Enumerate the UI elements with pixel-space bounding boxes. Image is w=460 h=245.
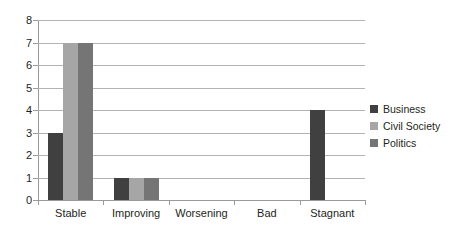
bar-group (48, 20, 93, 200)
x-axis-category-label: Stable (55, 207, 86, 219)
legend-item: Civil Society (370, 117, 460, 134)
x-axis-tick (169, 200, 170, 205)
x-axis-tick (103, 200, 104, 205)
legend-item-label: Business (383, 103, 426, 115)
y-axis-tick (33, 65, 38, 66)
bar-group (114, 20, 159, 200)
bar (129, 178, 144, 201)
y-axis-tick (33, 43, 38, 44)
x-axis-tick (234, 200, 235, 205)
y-axis-tick-label: 8 (8, 15, 32, 26)
x-axis-category-label: Stagnant (310, 207, 354, 219)
bar (144, 178, 159, 201)
bar-group (244, 20, 289, 200)
bar-chart: 012345678 StableImprovingWorseningBadSta… (0, 0, 460, 245)
x-axis-tick (365, 200, 366, 205)
bar (63, 43, 78, 201)
y-axis-tick (33, 155, 38, 156)
y-axis-tick (33, 20, 38, 21)
y-axis-tick-label: 0 (8, 195, 32, 206)
y-axis-tick-label: 5 (8, 82, 32, 93)
y-axis-tick (33, 200, 38, 201)
y-axis-tick (33, 88, 38, 89)
y-axis-tick (33, 133, 38, 134)
y-axis-labels: 012345678 (0, 0, 32, 245)
plot-area (38, 20, 365, 200)
y-axis-tick-label: 2 (8, 150, 32, 161)
bar-group (179, 20, 224, 200)
legend-item-label: Civil Society (383, 120, 440, 132)
bar-group (310, 20, 355, 200)
legend-item-label: Politics (383, 137, 416, 149)
chart-legend: BusinessCivil SocietyPolitics (370, 100, 460, 151)
y-axis-tick (33, 110, 38, 111)
x-axis-category-label: Improving (112, 207, 160, 219)
x-axis-tick (300, 200, 301, 205)
legend-swatch-icon (370, 139, 378, 147)
x-axis-tick (38, 200, 39, 205)
y-axis-tick-label: 1 (8, 172, 32, 183)
y-axis-tick-label: 3 (8, 127, 32, 138)
bar (310, 110, 325, 200)
bar (78, 43, 93, 201)
legend-item: Business (370, 100, 460, 117)
y-axis-tick-label: 6 (8, 60, 32, 71)
x-axis-category-label: Bad (257, 207, 277, 219)
x-axis-category-label: Worsening (175, 207, 227, 219)
gridline (38, 200, 365, 201)
bar (48, 133, 63, 201)
y-axis-tick-label: 4 (8, 105, 32, 116)
legend-swatch-icon (370, 105, 378, 113)
legend-swatch-icon (370, 122, 378, 130)
bar (114, 178, 129, 201)
y-axis-tick-label: 7 (8, 37, 32, 48)
legend-item: Politics (370, 134, 460, 151)
y-axis-tick (33, 178, 38, 179)
